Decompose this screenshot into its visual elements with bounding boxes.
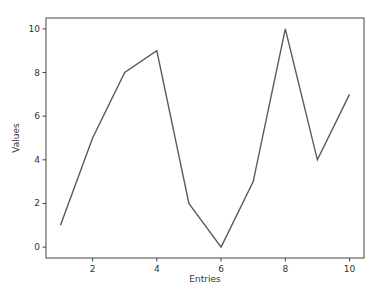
y-tick-label: 4 [34, 155, 40, 165]
x-tick-label: 10 [344, 264, 356, 274]
x-axis-ticks: 246810 [90, 258, 356, 274]
series-line [61, 29, 350, 247]
data-series [61, 29, 350, 247]
line-chart: 0246810 246810 Entries Values [0, 0, 380, 297]
y-tick-label: 2 [34, 198, 40, 208]
axes-frame [46, 18, 364, 258]
x-axis-label: Entries [189, 274, 221, 284]
x-tick-label: 2 [90, 264, 96, 274]
x-tick-label: 4 [154, 264, 160, 274]
y-tick-label: 8 [34, 68, 40, 78]
x-tick-label: 8 [282, 264, 288, 274]
y-axis-ticks: 0246810 [29, 24, 46, 252]
x-tick-label: 6 [218, 264, 224, 274]
y-tick-label: 6 [34, 111, 40, 121]
plot-frame [46, 18, 364, 258]
y-tick-label: 10 [29, 24, 41, 34]
y-tick-label: 0 [34, 242, 40, 252]
y-axis-label: Values [11, 123, 21, 153]
